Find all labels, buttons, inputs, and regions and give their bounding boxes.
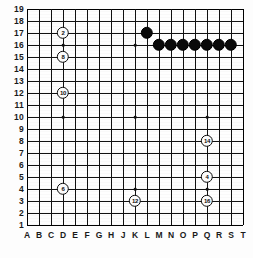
hoshi-point	[134, 44, 137, 47]
black-stone[interactable]	[213, 39, 225, 51]
hoshi-point	[62, 116, 65, 119]
hoshi-point	[134, 188, 137, 191]
white-stone[interactable]: 8	[57, 51, 69, 63]
column-label-R: R	[216, 231, 222, 240]
grid-line-horizontal	[27, 165, 243, 166]
white-stone[interactable]: 2	[57, 27, 69, 39]
column-label-Q: Q	[204, 231, 211, 240]
grid-line-vertical	[243, 9, 244, 225]
column-label-P: P	[192, 231, 198, 240]
column-label-L: L	[144, 231, 149, 240]
row-label-17: 17	[14, 29, 24, 38]
row-label-8: 8	[19, 137, 24, 146]
stone-move-number: 10	[60, 90, 66, 96]
column-label-K: K	[132, 231, 138, 240]
row-label-5: 5	[19, 173, 24, 182]
row-label-13: 13	[14, 77, 24, 86]
grid-line-horizontal	[27, 213, 243, 214]
white-stone[interactable]: 6	[57, 183, 69, 195]
stone-move-number: 4	[205, 174, 208, 180]
column-label-E: E	[72, 231, 78, 240]
column-label-C: C	[48, 231, 54, 240]
stone-move-number: 2	[61, 30, 64, 36]
grid-line-horizontal	[27, 225, 243, 226]
white-stone[interactable]: 14	[201, 135, 213, 147]
black-stone[interactable]	[189, 39, 201, 51]
column-label-G: G	[96, 231, 103, 240]
black-stone[interactable]	[201, 39, 213, 51]
go-diagram-root: 19181716151413121110987654321 2810612144…	[0, 0, 253, 258]
black-stone[interactable]	[177, 39, 189, 51]
row-label-3: 3	[19, 197, 24, 206]
grid-line-vertical	[147, 9, 148, 225]
row-label-2: 2	[19, 209, 24, 218]
go-board[interactable]: 281061214416	[27, 9, 243, 225]
row-label-6: 6	[19, 161, 24, 170]
grid-line-horizontal	[27, 153, 243, 154]
column-label-B: B	[36, 231, 42, 240]
hoshi-point	[206, 188, 209, 191]
column-label-axis: ABCDEFGHJKLMNOPQRST	[27, 231, 243, 247]
black-stone[interactable]	[141, 27, 153, 39]
white-stone[interactable]: 4	[201, 171, 213, 183]
white-stone[interactable]: 16	[201, 195, 213, 207]
column-label-O: O	[180, 231, 187, 240]
column-label-F: F	[84, 231, 89, 240]
column-label-D: D	[60, 231, 66, 240]
column-label-N: N	[168, 231, 174, 240]
hoshi-point	[206, 116, 209, 119]
row-label-15: 15	[14, 53, 24, 62]
row-label-1: 1	[19, 221, 24, 230]
stone-move-number: 6	[61, 186, 64, 192]
hoshi-point	[134, 116, 137, 119]
row-label-7: 7	[19, 149, 24, 158]
row-label-16: 16	[14, 41, 24, 50]
stone-move-number: 14	[204, 138, 210, 144]
row-label-4: 4	[19, 185, 24, 194]
stone-move-number: 16	[204, 198, 210, 204]
column-label-M: M	[155, 231, 162, 240]
row-label-14: 14	[14, 65, 24, 74]
white-stone[interactable]: 10	[57, 87, 69, 99]
column-label-A: A	[24, 231, 30, 240]
hoshi-point	[62, 44, 65, 47]
column-label-T: T	[240, 231, 245, 240]
row-label-12: 12	[14, 89, 24, 98]
row-label-18: 18	[14, 17, 24, 26]
column-label-S: S	[228, 231, 234, 240]
row-label-9: 9	[19, 125, 24, 134]
black-stone[interactable]	[165, 39, 177, 51]
figure-caption	[0, 248, 253, 258]
stone-move-number: 8	[61, 54, 64, 60]
black-stone[interactable]	[225, 39, 237, 51]
column-label-H: H	[108, 231, 114, 240]
black-stone[interactable]	[153, 39, 165, 51]
column-label-J: J	[121, 231, 126, 240]
row-label-10: 10	[14, 113, 24, 122]
stone-move-number: 12	[132, 198, 138, 204]
white-stone[interactable]: 12	[129, 195, 141, 207]
row-label-axis: 19181716151413121110987654321	[4, 9, 24, 225]
row-label-11: 11	[14, 101, 24, 110]
grid-line-horizontal	[27, 129, 243, 130]
row-label-19: 19	[14, 5, 24, 14]
